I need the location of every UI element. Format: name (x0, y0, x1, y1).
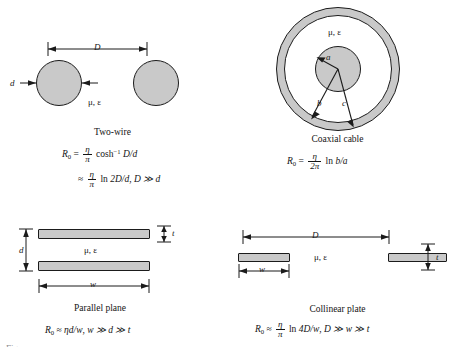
formula-two-wire-main: R0 = η π cosh−1 D/d (62, 145, 137, 164)
formula-denominator: π (83, 154, 92, 164)
formula-approx-rel: ≈ (78, 174, 83, 184)
caption-parallel-plane: Parallel plane (0, 303, 200, 313)
formula-approx-argument: 2D/d (110, 174, 129, 184)
formula-lhs-sub: 0 (261, 328, 264, 335)
formula-condition: w ≫ d ≫ t (87, 325, 130, 335)
formula-argument: D/d (123, 149, 137, 159)
panel-two-wire: D d μ, ε Two-wire R0 = η π cosh−1 (0, 0, 225, 200)
caption-two-wire: Two-wire (0, 127, 225, 137)
formula-numerator: η (308, 152, 321, 161)
formula-rel: = (298, 156, 303, 166)
caption-coaxial-cable: Coaxial cable (225, 134, 450, 144)
panel-collinear-plate: D w t μ, ε Col (225, 200, 450, 347)
formula-lhs-sub: 0 (68, 153, 71, 160)
label-medium-two-wire: μ, ε (88, 97, 101, 107)
label-w-parallel: w (90, 279, 96, 289)
label-c-coax: c (342, 98, 346, 108)
panel-parallel-plane: d t μ, ε w Parallel plane (0, 200, 225, 347)
formula-approx-numerator: η (88, 170, 97, 179)
formula-two-wire-approx: ≈ η π ln 2D/d, D ≫ d (78, 170, 160, 189)
label-b-coax: b (317, 98, 322, 108)
formula-numerator: η (276, 320, 285, 329)
formula-lhs-sub: 0 (293, 160, 296, 167)
label-d-two-wire: d (10, 78, 15, 88)
formula-denominator: 2π (308, 161, 321, 171)
formula-numerator: η (83, 145, 92, 154)
formula-expression: ηd/w (64, 325, 82, 335)
formula-approx-condition: D ≫ d (134, 174, 160, 184)
formula-function-exponent: −1 (114, 148, 121, 155)
formula-approx-function: ln (100, 174, 107, 184)
formula-fraction: η π (83, 145, 92, 164)
formula-rel: ≈ (56, 325, 61, 335)
formula-function: cosh (96, 149, 113, 159)
formula-coaxial-main: R0 = η 2π ln b/a (287, 152, 348, 171)
label-a-coax: a (326, 52, 331, 62)
formula-argument: b/a (335, 156, 347, 166)
formula-function: ln (326, 156, 333, 166)
formula-lhs-sub: 0 (51, 329, 54, 336)
formula-fraction: η π (276, 320, 285, 339)
label-t-collinear: t (436, 252, 439, 262)
formula-collinear-main: R0 ≈ η π ln 4D/w, D ≫ w ≫ t (255, 320, 369, 339)
transmission-line-figure: D d μ, ε Two-wire R0 = η π cosh−1 (0, 0, 450, 347)
formula-fraction: η 2π (308, 152, 321, 171)
label-medium-coax: μ, ε (328, 27, 341, 37)
formula-rel: = (73, 149, 78, 159)
formula-parallel-main: R0 ≈ ηd/w, w ≫ d ≫ t (45, 324, 131, 336)
formula-denominator: π (276, 329, 285, 339)
formula-approx-fraction: η π (88, 170, 97, 189)
formula-function: ln (289, 324, 296, 334)
formula-condition: D ≫ w ≫ t (324, 324, 369, 334)
label-medium-collinear: μ, ε (314, 252, 327, 262)
panel-coaxial-cable: a b c μ, ε Coaxial cable R0 = η 2π ln b/… (225, 0, 450, 200)
formula-argument: 4D/w (299, 324, 320, 334)
formula-approx-denominator: π (88, 179, 97, 189)
caption-collinear-plate: Collinear plate (225, 304, 450, 314)
formula-rel: ≈ (266, 324, 271, 334)
